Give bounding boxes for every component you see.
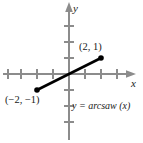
- x-axis-label: x: [131, 78, 136, 89]
- endpoint-dot-upper: [98, 55, 104, 61]
- graph-figure: y x (2, 1) (−2, −1) y = arcsaw (x): [0, 0, 143, 143]
- equation-label: y = arcsaw (x): [72, 101, 130, 111]
- y-axis-label: y: [73, 3, 78, 14]
- endpoint-dot-lower: [34, 87, 40, 93]
- point-label-lower: (−2, −1): [5, 95, 40, 106]
- coordinate-plane: [0, 0, 143, 143]
- y-axis-arrowhead: [65, 2, 73, 12]
- point-label-upper: (2, 1): [79, 42, 102, 53]
